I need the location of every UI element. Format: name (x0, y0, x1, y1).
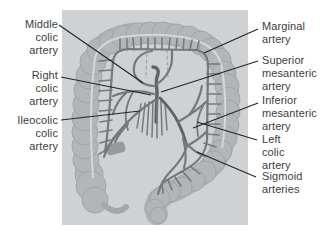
label-inferior-mesenteric-artery: Inferior mesanteric artery (262, 94, 327, 133)
label-right-colic-artery: Right colic artery (0, 69, 58, 108)
label-marginal-artery: Marginal artery (262, 20, 327, 46)
figure-canvas: Middle colic artery Right colic artery I… (0, 0, 327, 234)
label-sigmoid-arteries: Sigmoid arteries (262, 170, 327, 196)
label-ileocolic-artery: Ileocolic colic artery (0, 114, 58, 153)
label-left-colic-artery: Left colic artery (262, 133, 327, 172)
label-superior-mesenteric-artery: Superior mesanteric artery (262, 54, 327, 93)
label-middle-colic-artery: Middle colic artery (0, 18, 58, 57)
